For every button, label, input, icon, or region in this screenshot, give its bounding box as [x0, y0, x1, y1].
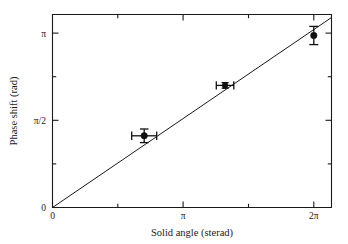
data-point-1-marker — [141, 133, 147, 139]
fit-line-segment — [53, 18, 332, 208]
y-axis-title: Phase shift (rad) — [8, 76, 20, 145]
linear-fit-line — [53, 18, 332, 208]
data-point-3-marker — [311, 32, 317, 38]
data-point-3 — [309, 26, 318, 44]
data-point-2-marker — [222, 83, 228, 89]
plot-canvas: 0 π 2π 0 π/2 π Solid angle (sterad) Phas… — [0, 0, 348, 244]
x-axis-ticks — [53, 15, 314, 208]
data-point-1 — [132, 129, 157, 143]
x-ticklabel-pi: π — [181, 211, 186, 221]
data-point-2 — [216, 81, 234, 89]
x-axis-title: Solid angle (sterad) — [151, 227, 234, 239]
phase-shift-vs-solid-angle-figure: 0 π 2π 0 π/2 π Solid angle (sterad) Phas… — [0, 0, 348, 244]
y-axis-ticks — [53, 33, 332, 207]
y-ticklabel-0: 0 — [41, 203, 46, 213]
y-ticklabel-pi: π — [41, 29, 46, 39]
x-ticklabel-2pi: 2π — [309, 211, 319, 221]
x-ticklabel-0: 0 — [50, 211, 55, 221]
y-ticklabel-pi-half: π/2 — [34, 116, 46, 126]
